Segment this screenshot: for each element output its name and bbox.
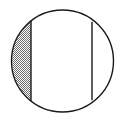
middle-band-unshaded (31, 0, 92, 120)
circle-segment-figure (0, 0, 127, 120)
figure-container (0, 0, 127, 120)
